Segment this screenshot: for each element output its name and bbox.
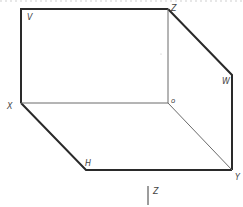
label-y: Y <box>235 173 241 182</box>
label-z-bottom: Z <box>152 187 159 196</box>
label-v: V <box>27 13 33 22</box>
label-o: o <box>171 97 175 105</box>
v-plane-outer-edge <box>21 9 168 103</box>
projection-diagram: V Z W X o H Y Z <box>0 0 243 207</box>
label-h: H <box>85 159 91 168</box>
label-z-top: Z <box>170 4 177 13</box>
oy-axis-line <box>168 103 232 170</box>
diagram-svg: V Z W X o H Y Z <box>0 0 243 207</box>
w-plane-outer-edge <box>168 9 232 170</box>
stray-dot <box>160 53 161 54</box>
label-x: X <box>6 102 13 111</box>
label-w: W <box>222 77 231 86</box>
